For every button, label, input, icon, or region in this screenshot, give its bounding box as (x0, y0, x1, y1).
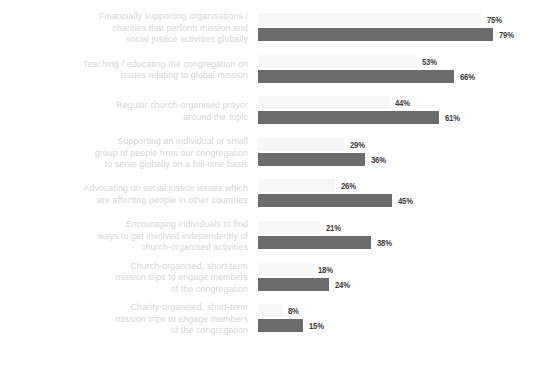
bar-light (258, 263, 312, 276)
bar-row-light: 26% (258, 179, 360, 192)
bar-value-light: 21% (326, 222, 341, 233)
bar-row-dark: 38% (258, 236, 395, 249)
bar-group: Financially supporting organisations / c… (0, 10, 555, 47)
bar-row-dark: 66% (258, 70, 479, 83)
bar-value-light: 8% (288, 305, 299, 316)
bars-column: 26% 45% (258, 176, 555, 213)
bar-light (258, 55, 416, 68)
bar-row-light: 75% (258, 13, 505, 26)
category-label: Charity-organised, short-term mission tr… (0, 302, 258, 337)
bar-value-dark: 45% (398, 195, 413, 206)
bar-group: Teaching / educating the congregation on… (0, 52, 555, 89)
bars-column: 75% 79% (258, 10, 555, 47)
bars-column: 44% 61% (258, 93, 555, 130)
bar-value-dark: 66% (460, 71, 475, 82)
bar-value-light: 26% (341, 180, 356, 191)
category-label: Teaching / educating the congregation on… (0, 59, 258, 82)
horizontal-bar-chart: Financially supporting organisations / c… (0, 0, 555, 368)
bar-row-dark: 15% (258, 319, 327, 332)
category-label: Supporting an individual or small group … (0, 136, 258, 171)
bar-row-dark: 79% (258, 28, 517, 41)
bar-row-light: 44% (258, 96, 413, 109)
category-label: Advocating on social justice issues whic… (0, 183, 258, 206)
bar-group: Advocating on social justice issues whic… (0, 176, 555, 213)
bar-dark (258, 236, 371, 249)
bar-row-dark: 61% (258, 111, 464, 124)
bar-group: Regular church-organised prayer around t… (0, 93, 555, 130)
bar-light (258, 221, 320, 234)
bars-column: 8% 15% (258, 301, 555, 338)
bar-value-light: 44% (395, 97, 410, 108)
bar-value-dark: 61% (445, 112, 460, 123)
bars-column: 29% 36% (258, 135, 555, 172)
bar-dark (258, 28, 493, 41)
bar-value-dark: 15% (309, 320, 324, 331)
bar-value-light: 29% (350, 139, 365, 150)
bar-light (258, 138, 344, 151)
bars-column: 53% 66% (258, 52, 555, 89)
bars-column: 18% 24% (258, 260, 555, 297)
bar-row-light: 29% (258, 138, 368, 151)
bar-value-light: 75% (487, 14, 502, 25)
bar-group: Church-organised, short-term mission tri… (0, 260, 555, 297)
bar-group: Charity-organised, short-term mission tr… (0, 301, 555, 338)
bar-value-dark: 24% (335, 279, 350, 290)
bar-row-light: 53% (258, 55, 440, 68)
category-label: Regular church-organised prayer around t… (0, 100, 258, 123)
bar-light (258, 13, 481, 26)
bar-row-light: 8% (258, 304, 301, 317)
bar-row-dark: 45% (258, 194, 416, 207)
bar-row-light: 21% (258, 221, 345, 234)
bar-value-light: 53% (422, 56, 437, 67)
bar-dark (258, 194, 392, 207)
category-label: Church-organised, short-term mission tri… (0, 261, 258, 296)
bar-light (258, 96, 389, 109)
bar-row-light: 18% (258, 263, 336, 276)
bar-light (258, 179, 335, 192)
bar-dark (258, 153, 365, 166)
bar-group: Supporting an individual or small group … (0, 135, 555, 172)
bar-group: Encouraging individuals to find ways to … (0, 218, 555, 255)
bar-dark (258, 111, 439, 124)
bar-value-light: 18% (318, 264, 333, 275)
bar-row-dark: 36% (258, 153, 389, 166)
category-label: Financially supporting organisations / c… (0, 11, 258, 46)
bar-value-dark: 38% (377, 237, 392, 248)
bar-dark (258, 278, 329, 291)
bars-column: 21% 38% (258, 218, 555, 255)
bar-dark (258, 319, 303, 332)
bar-value-dark: 79% (499, 29, 514, 40)
bar-value-dark: 36% (371, 154, 386, 165)
category-label: Encouraging individuals to find ways to … (0, 219, 258, 254)
bar-dark (258, 70, 454, 83)
plot-area: Financially supporting organisations / c… (0, 10, 555, 360)
bar-row-dark: 24% (258, 278, 354, 291)
bar-light (258, 304, 282, 317)
